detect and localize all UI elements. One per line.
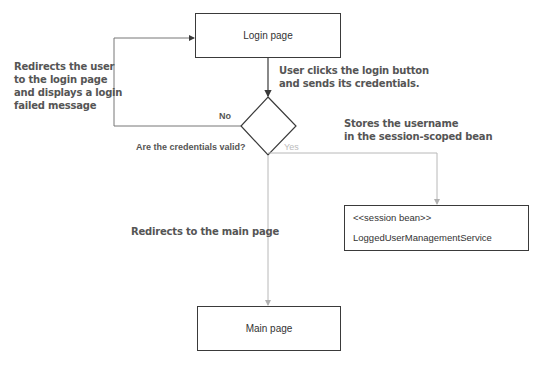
user-clicks-note: User clicks the login button and sends i…	[279, 64, 429, 90]
note-line: and displays a login	[14, 86, 122, 99]
main-page-label: Main page	[246, 323, 293, 334]
note-line: User clicks the login button	[279, 64, 429, 77]
redirect-main-note: Redirects to the main page	[131, 225, 279, 238]
yes-to-session-arrow	[268, 153, 437, 204]
yes-label: Yes	[284, 142, 299, 152]
no-label: No	[219, 111, 231, 121]
note-line: and sends its credentials.	[279, 77, 429, 90]
session-bean-box: <<session bean>> LoggedUserManagementSer…	[344, 205, 529, 251]
redirect-login-note: Redirects the user to the login page and…	[14, 60, 122, 112]
flow-diagram: Login page Main page <<session bean>> Lo…	[0, 0, 543, 367]
main-page-box: Main page	[197, 306, 341, 351]
note-line: in the session-scoped bean	[344, 130, 492, 143]
stores-username-note: Stores the username in the session-scope…	[344, 117, 492, 143]
login-page-label: Login page	[243, 30, 293, 41]
note-line: failed message	[14, 99, 122, 112]
note-line: to the login page	[14, 73, 122, 86]
note-line: Redirects the user	[14, 60, 122, 73]
session-bean-stereotype: <<session bean>>	[353, 212, 528, 223]
note-line: Stores the username	[344, 117, 492, 130]
decision-label: Are the credentials valid?	[136, 142, 246, 152]
session-bean-name: LoggedUserManagementService	[353, 232, 528, 243]
login-page-box: Login page	[195, 13, 341, 58]
